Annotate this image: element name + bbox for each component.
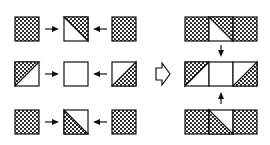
arrow-left-icon: [93, 26, 107, 32]
arrow-down-icon: [218, 45, 224, 57]
arrow-left-icon: [93, 71, 107, 77]
arrow-right-icon: [45, 26, 59, 32]
result-strip-top: [185, 17, 257, 41]
tile-r2-c3-diagonal: [112, 62, 136, 86]
result-strip-bottom: [185, 110, 257, 134]
tile-r3-c2-diagonal: [64, 110, 88, 134]
arrow-up-icon: [218, 92, 224, 104]
tile-assembly-diagram: [0, 0, 270, 145]
tile-r3-c3-full: [112, 110, 136, 134]
result-strip-middle: [185, 62, 257, 86]
arrow-right-icon: [45, 71, 59, 77]
tile-r1-c3-full: [112, 17, 136, 41]
arrow-right-icon: [45, 119, 59, 125]
hollow-right-arrow-icon: [156, 63, 170, 85]
tile-r3-c1-full: [15, 110, 39, 134]
tile-r2-c2-empty: [64, 62, 88, 86]
tile-r2-c1-diagonal: [15, 62, 39, 86]
tile-r1-c1-full: [15, 17, 39, 41]
arrow-left-icon: [93, 119, 107, 125]
tile-r1-c2-diagonal: [64, 17, 88, 41]
